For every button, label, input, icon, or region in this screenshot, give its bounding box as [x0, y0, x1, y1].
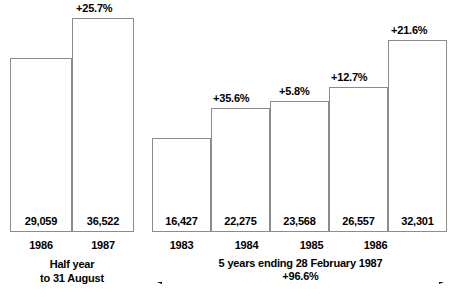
pct-label-fiveyear-1985: +5.8% — [279, 85, 310, 97]
value-label-fiveyear-1987: 32,301 — [388, 215, 447, 227]
span-growth-label: +96.6% — [152, 270, 449, 282]
caption-halfyear-line2: to 31 August — [10, 272, 134, 284]
bar-halfyear-1986 — [10, 58, 72, 232]
value-label-halfyear-1986: 29,059 — [10, 215, 72, 227]
year-label-halfyear-1987: 1987 — [72, 239, 134, 251]
pct-label-fiveyear-1986: +12.7% — [331, 71, 367, 83]
year-label-halfyear-1986: 1986 — [10, 239, 72, 251]
pct-label-fiveyear-1987: +21.6% — [391, 24, 427, 36]
caption-halfyear-line1: Half year — [10, 258, 134, 270]
pct-label-fiveyear-1984: +35.6% — [213, 92, 249, 104]
bar-fiveyear-1984 — [211, 108, 270, 232]
value-label-fiveyear-1983: 16,427 — [152, 215, 211, 227]
year-tick-label-1986: 1986 — [346, 239, 405, 251]
bar-fiveyear-1985 — [270, 101, 329, 232]
year-tick-label-1984: 1984 — [217, 239, 276, 251]
value-label-fiveyear-1986: 26,557 — [329, 215, 388, 227]
bar-chart: +25.7% 29,059 36,522 1986 1987 Half year… — [0, 0, 453, 297]
caption-fiveyear-line1: 5 years ending 28 February 1987 — [152, 257, 449, 269]
value-label-fiveyear-1985: 23,568 — [270, 215, 329, 227]
pct-label-halfyear-1987: +25.7% — [76, 2, 112, 14]
bar-halfyear-1987 — [72, 18, 134, 232]
bar-fiveyear-1986 — [329, 87, 388, 232]
value-label-fiveyear-1984: 22,275 — [211, 215, 270, 227]
year-tick-label-1985: 1985 — [282, 239, 341, 251]
year-tick-label-1983: 1983 — [152, 239, 211, 251]
value-label-halfyear-1987: 36,522 — [72, 215, 134, 227]
bar-fiveyear-1987 — [388, 40, 447, 232]
